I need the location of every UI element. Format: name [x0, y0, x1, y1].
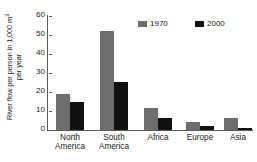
bar-group — [100, 16, 128, 130]
legend-item-1970[interactable]: 1970 — [138, 20, 168, 28]
bar-group — [224, 16, 252, 130]
legend-swatch-1970 — [138, 21, 147, 27]
y-axis-label-line1: River flow per person in 1,000 m — [5, 17, 14, 120]
y-tick-label: 40 — [36, 49, 45, 57]
bar-2000-south-america[interactable] — [114, 82, 128, 130]
bar-1970-south-america[interactable] — [100, 31, 114, 130]
bar-2000-europe[interactable] — [200, 126, 214, 130]
y-tick-label: 50 — [36, 30, 45, 38]
x-category-label: Asia — [210, 133, 257, 142]
bar-1970-europe[interactable] — [186, 122, 200, 130]
y-tick-label: 20 — [36, 87, 45, 95]
plot-area — [48, 16, 252, 130]
y-axis-label-superscript: 3 — [4, 14, 10, 17]
legend-label: 1970 — [150, 20, 168, 28]
x-category-line: Asia — [210, 133, 257, 142]
y-tick-label: 60 — [36, 11, 45, 19]
bar-group — [186, 16, 214, 130]
chart-figure: River flow per person in 1,000 m3 per ye… — [0, 0, 257, 162]
bar-2000-asia[interactable] — [238, 128, 252, 130]
x-category-line: America — [86, 142, 142, 151]
bar-1970-asia[interactable] — [224, 118, 238, 130]
bar-1970-north-america[interactable] — [56, 94, 70, 130]
legend-label: 2000 — [207, 20, 225, 28]
y-tick-label: 10 — [36, 106, 45, 114]
legend-swatch-2000 — [195, 21, 204, 27]
bar-2000-north-america[interactable] — [70, 102, 84, 130]
bar-group — [144, 16, 172, 130]
bar-1970-africa[interactable] — [144, 108, 158, 130]
y-axis-label-text: River flow per person in 1,000 m3 per ye… — [5, 7, 23, 127]
y-axis-label-line2: per year — [14, 7, 23, 127]
y-tick-label: 30 — [36, 68, 45, 76]
y-tick-mark — [49, 130, 52, 131]
bar-2000-africa[interactable] — [158, 118, 172, 130]
bar-group — [56, 16, 84, 130]
x-axis-line — [47, 130, 253, 131]
y-tick-label: 0 — [41, 125, 45, 133]
y-axis-label: River flow per person in 1,000 m3 per ye… — [0, 0, 26, 140]
legend-item-2000[interactable]: 2000 — [195, 20, 225, 28]
